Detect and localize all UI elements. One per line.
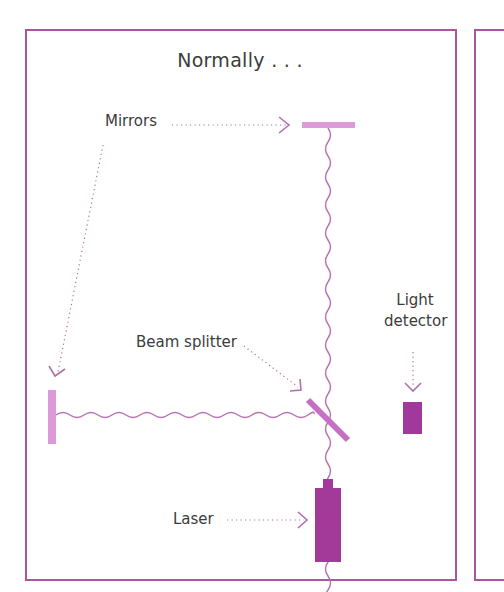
- light-detector-label-line1: Light: [384, 290, 446, 311]
- light-detector-label-line2: detector: [384, 311, 446, 332]
- diagram-title: Normally . . .: [0, 49, 480, 71]
- light-detector-arrow: [405, 352, 421, 391]
- light-detector-label: Light detector: [384, 290, 446, 332]
- beam-splitter-arrow: [244, 346, 301, 391]
- laser-label: Laser: [173, 510, 214, 528]
- mirrors-label: Mirrors: [105, 112, 157, 130]
- top-mirror: [302, 122, 355, 128]
- beam-splitter: [308, 400, 348, 440]
- mirrors-top-arrow: [172, 117, 289, 133]
- beam-splitter-label: Beam splitter: [136, 333, 237, 351]
- laser-nozzle: [323, 479, 333, 488]
- mirrors-left-arrow: [49, 145, 103, 376]
- laser-arrow: [227, 512, 307, 528]
- light-detector: [403, 402, 422, 434]
- left-mirror: [48, 390, 56, 444]
- horizontal-light-beam: [56, 412, 314, 417]
- laser-body: [315, 488, 341, 562]
